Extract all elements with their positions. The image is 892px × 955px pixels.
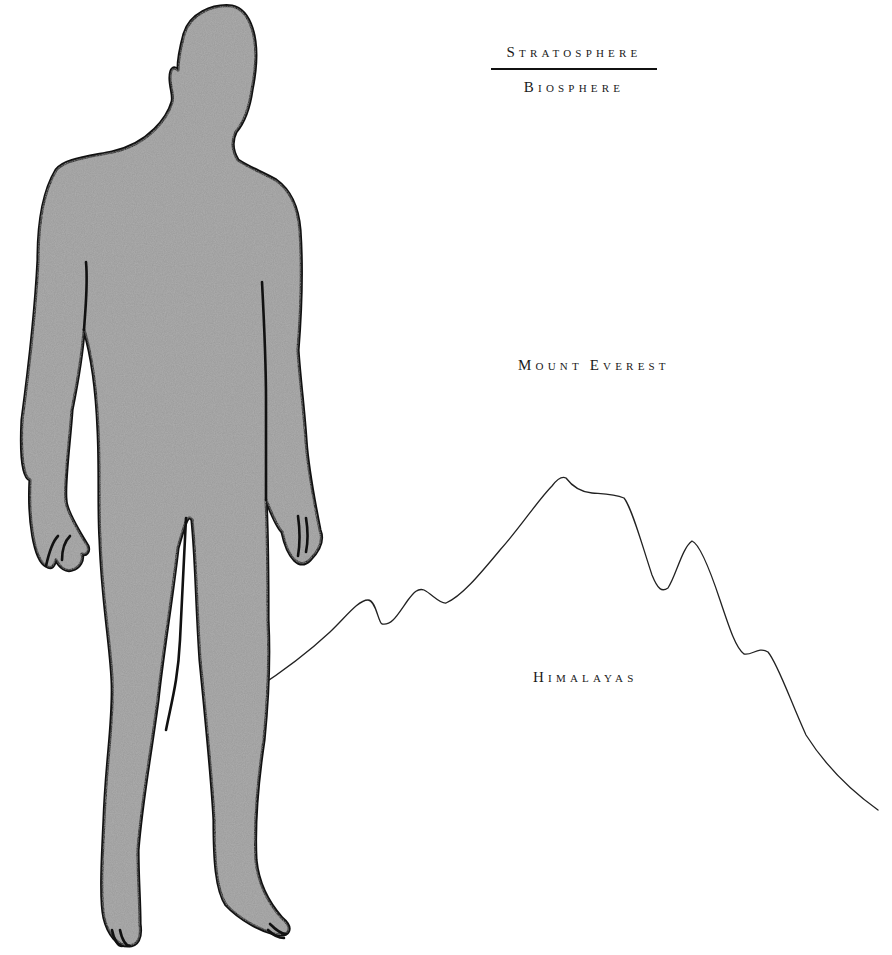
stratosphere-biosphere-ratio: Stratosphere Biosphere [491, 44, 657, 96]
label-himalayas: Himalayas [533, 669, 637, 686]
illustration [0, 0, 892, 955]
label-biosphere: Biosphere [491, 79, 657, 96]
label-stratosphere: Stratosphere [491, 44, 657, 61]
human-figure [21, 6, 321, 946]
label-mount-everest: Mount Everest [518, 357, 670, 374]
mountain-profile-line [248, 477, 878, 810]
ratio-divider-line [491, 68, 657, 70]
